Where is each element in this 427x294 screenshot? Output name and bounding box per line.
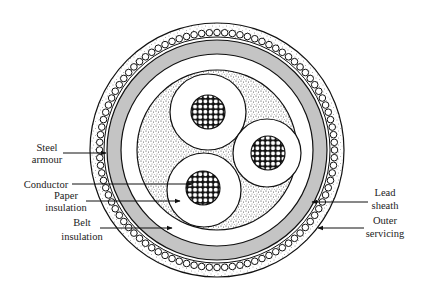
label-belt-insulation-line1: Belt (73, 217, 91, 228)
label-lead-sheath-line1: Lead (375, 187, 397, 198)
core-3 (167, 153, 241, 227)
label-belt-insulation-line2: insulation (61, 231, 103, 242)
label-outer-servicing-line1: Outer (373, 215, 397, 226)
label-steel-armour-line2: armour (32, 154, 63, 165)
conductor (186, 171, 220, 205)
conductor (191, 95, 225, 129)
cable-cross-section-diagram: Steel armour Conductor Paper insulation … (0, 0, 427, 294)
label-paper-insulation-line2: insulation (45, 202, 87, 213)
conductor (251, 136, 285, 170)
label-paper-insulation-line1: Paper (54, 190, 78, 201)
core-2 (233, 119, 301, 187)
label-steel-armour-line1: Steel (37, 142, 58, 153)
label-lead-sheath-line2: sheath (372, 200, 400, 211)
label-outer-servicing-line2: servicing (366, 228, 405, 239)
core-1 (170, 74, 246, 150)
label-conductor: Conductor (24, 179, 69, 190)
